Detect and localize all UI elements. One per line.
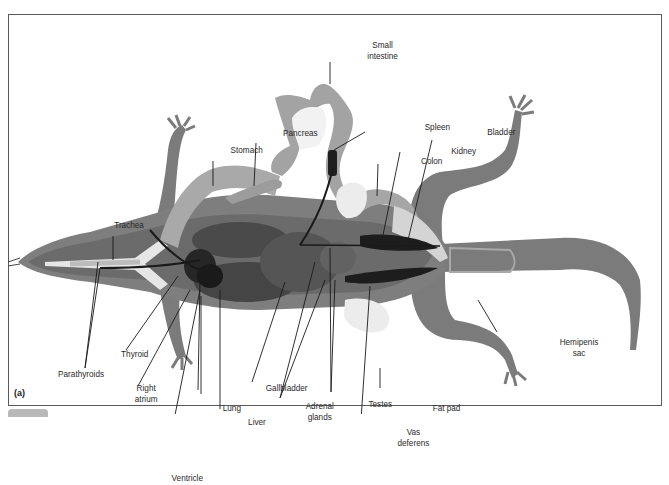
label-liver: Liver <box>248 418 266 429</box>
label-pancreas: Pancreas <box>283 129 318 140</box>
label-bladder: Bladder <box>487 128 515 139</box>
panel-label: (a) <box>14 388 25 398</box>
label-small-intestine: Small intestine <box>367 41 398 62</box>
label-right-atrium: Right atrium <box>135 384 158 405</box>
label-fat-pad: Fat pad <box>433 404 461 415</box>
label-lung: Lung <box>223 404 241 415</box>
label-hemipenis-sac: Hemipenis sac <box>560 338 599 359</box>
testes-shape <box>320 242 356 274</box>
label-gallbladder: Gallbladder <box>266 384 308 395</box>
label-vas-deferens: Vas deferens <box>397 428 429 449</box>
label-spleen: Spleen <box>425 123 451 134</box>
label-trachea: Trachea <box>114 221 144 232</box>
label-kidney: Kidney <box>451 147 476 158</box>
fat-pad-shape <box>344 298 389 332</box>
label-colon: Colon <box>421 157 442 168</box>
label-testes: Testes <box>368 400 392 411</box>
label-thyroid: Thyroid <box>121 350 148 361</box>
label-adrenal-glands: Adrenal glands <box>306 402 334 423</box>
label-stomach: Stomach <box>231 146 263 157</box>
label-ventricle: Ventricle <box>172 474 203 485</box>
label-parathyroids: Parathyroids <box>58 370 104 381</box>
